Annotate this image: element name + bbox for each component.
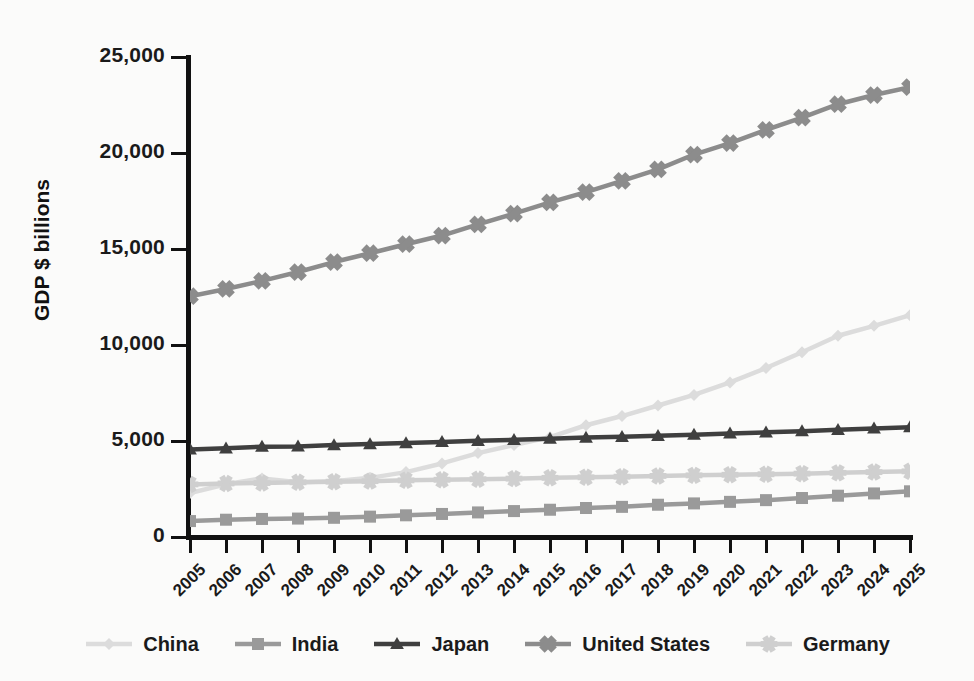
x-axis-tick (225, 540, 228, 553)
legend-item-india[interactable]: India (233, 632, 339, 656)
square-marker-icon (233, 632, 283, 656)
y-axis-tick (171, 536, 187, 539)
legend-item-united-states[interactable]: United States (523, 632, 710, 656)
y-axis-tick-label: 0 (25, 523, 165, 547)
asterisk-marker-icon (744, 632, 794, 656)
gdp-line-chart: 05,00010,00015,00020,00025,000 GDP $ bil… (0, 0, 974, 681)
legend-label: United States (582, 633, 710, 656)
y-axis-title: GDP $ billions (30, 140, 54, 360)
x-axis-tick (909, 540, 912, 553)
y-axis-tick (171, 152, 187, 155)
legend-label: China (143, 633, 199, 656)
chart-legend: ChinaIndiaJapan United StatesGermany (0, 632, 974, 656)
legend-item-china[interactable]: China (84, 632, 199, 656)
x-axis-tick-labels: 2005200620072008200920102011201220132014… (0, 560, 974, 630)
y-axis-tick-label: 5,000 (25, 427, 165, 451)
x-axis-tick (765, 540, 768, 553)
series-united-states (190, 78, 910, 305)
x-axis-tick (729, 540, 732, 553)
series-india (190, 485, 910, 527)
x-axis-tick (657, 540, 660, 553)
x-axis-tick (405, 540, 408, 553)
legend-item-germany[interactable]: Germany (744, 632, 890, 656)
x-axis-tick (369, 540, 372, 553)
x-axis-tick (693, 540, 696, 553)
legend-label: Japan (431, 633, 489, 656)
x-axis-tick (477, 540, 480, 553)
x-axis-tick (549, 540, 552, 553)
x-axis-tick (297, 540, 300, 553)
y-axis-tick (171, 248, 187, 251)
x-axis-tick (261, 540, 264, 553)
triangle-marker-icon (372, 632, 422, 656)
x-marker-icon (523, 632, 573, 656)
x-axis-tick (441, 540, 444, 553)
diamond-marker-icon (84, 632, 134, 656)
x-axis-tick (801, 540, 804, 553)
x-axis-tick (513, 540, 516, 553)
legend-item-japan[interactable]: Japan (372, 632, 489, 656)
x-axis-tick (333, 540, 336, 553)
y-axis-tick (171, 344, 187, 347)
x-axis-tick (621, 540, 624, 553)
x-axis-tick (837, 540, 840, 553)
plot-area (190, 57, 910, 537)
y-axis-tick (171, 440, 187, 443)
legend-label: India (292, 633, 339, 656)
x-axis-tick (585, 540, 588, 553)
y-axis-tick-label: 25,000 (25, 43, 165, 67)
series-japan (190, 420, 910, 454)
series-lines (190, 57, 910, 537)
x-axis-tick (873, 540, 876, 553)
y-axis-tick (171, 56, 187, 59)
legend-label: Germany (803, 633, 890, 656)
x-axis-tick (189, 540, 192, 553)
series-germany (190, 463, 910, 494)
